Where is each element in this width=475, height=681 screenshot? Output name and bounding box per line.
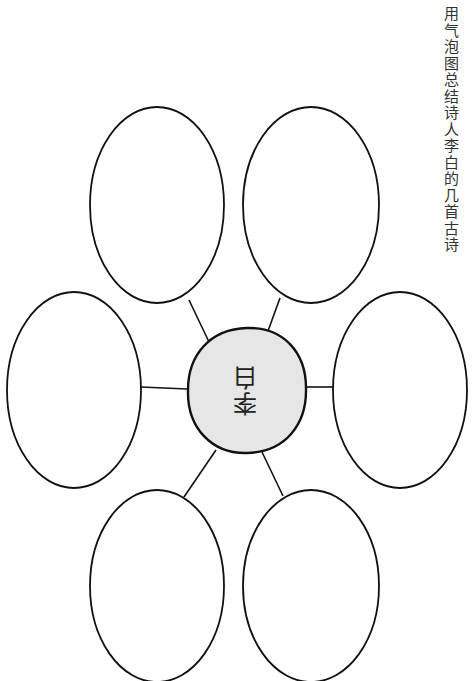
worksheet-title: 用气泡图总结诗人李白的几首古诗 bbox=[440, 6, 461, 254]
bubble-bottom-right[interactable] bbox=[243, 490, 379, 681]
center-label: 李白 bbox=[217, 360, 277, 420]
connector-top-left bbox=[189, 300, 210, 344]
bubble-bottom-left[interactable] bbox=[90, 490, 224, 681]
connector-top-right bbox=[268, 298, 280, 331]
bubble-map-canvas bbox=[0, 0, 475, 681]
bubble-left[interactable] bbox=[7, 292, 141, 488]
bubble-top-left[interactable] bbox=[90, 107, 224, 303]
bubble-top-right[interactable] bbox=[243, 107, 379, 303]
connector-bottom-right bbox=[262, 452, 283, 496]
connector-bottom-left bbox=[184, 450, 216, 497]
bubble-right[interactable] bbox=[333, 292, 467, 488]
connector-left bbox=[141, 387, 187, 389]
bubble-map: 李白 用气泡图总结诗人李白的几首古诗 bbox=[0, 0, 475, 681]
